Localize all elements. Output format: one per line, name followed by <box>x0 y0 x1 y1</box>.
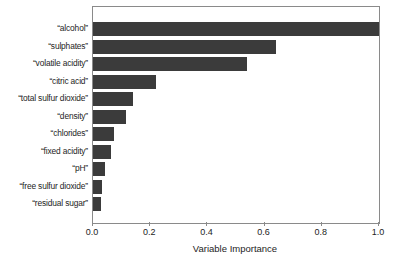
tick-mark <box>206 222 207 226</box>
tick-mark <box>92 222 93 226</box>
x-axis-ticks: 0.00.20.40.60.81.0 <box>92 222 378 244</box>
bar-row <box>93 160 379 178</box>
bar-row <box>93 55 379 73</box>
tick-label: 1.0 <box>372 227 385 237</box>
tick-mark <box>378 222 379 226</box>
category-label: “residual sugar” <box>0 195 88 213</box>
tick-label: 0.2 <box>143 227 156 237</box>
bar <box>93 22 379 36</box>
bar <box>93 110 126 124</box>
category-label: “sulphates” <box>0 38 88 56</box>
bars-layer <box>93 7 379 223</box>
bar <box>93 57 247 71</box>
tick-mark <box>321 222 322 226</box>
category-label: “alcohol” <box>0 20 88 38</box>
tick-mark <box>264 222 265 226</box>
category-label: “pH” <box>0 160 88 178</box>
bar <box>93 92 133 106</box>
bar <box>93 162 105 176</box>
category-label: “chlorides” <box>0 125 88 143</box>
bar-row <box>93 125 379 143</box>
bar <box>93 40 276 54</box>
bar <box>93 180 102 194</box>
category-axis-labels: “alcohol”“sulphates”“volatile acidity”“c… <box>0 7 88 223</box>
category-label: “fixed acidity” <box>0 143 88 161</box>
category-label: “citric acid” <box>0 73 88 91</box>
bar-row <box>93 108 379 126</box>
tick-label: 0.8 <box>315 227 328 237</box>
category-label: “total sulfur dioxide” <box>0 90 88 108</box>
category-label: “volatile acidity” <box>0 55 88 73</box>
x-axis-title: Variable Importance <box>92 243 378 254</box>
bar-row <box>93 20 379 38</box>
bar-row <box>93 195 379 213</box>
tick-label: 0.4 <box>200 227 213 237</box>
category-label: “free sulfur dioxide” <box>0 178 88 196</box>
tick-mark <box>149 222 150 226</box>
bar <box>93 127 114 141</box>
bar-row <box>93 73 379 91</box>
bar <box>93 145 111 159</box>
bar <box>93 75 156 89</box>
category-label: “density” <box>0 108 88 126</box>
tick-label: 0.6 <box>257 227 270 237</box>
bar-row <box>93 38 379 56</box>
variable-importance-chart: “alcohol”“sulphates”“volatile acidity”“c… <box>0 0 393 265</box>
bar-row <box>93 178 379 196</box>
tick-label: 0.0 <box>86 227 99 237</box>
bar-row <box>93 143 379 161</box>
bar <box>93 197 101 211</box>
bar-row <box>93 90 379 108</box>
